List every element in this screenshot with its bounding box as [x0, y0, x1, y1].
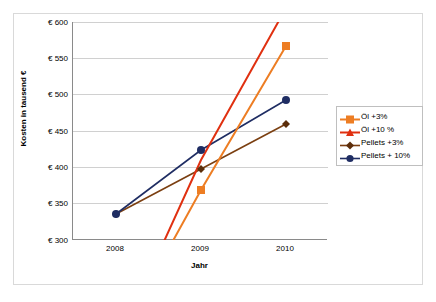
y-tick-450: € 450 — [24, 128, 68, 136]
legend-label-pellets-10: Pellets + 10% — [361, 151, 410, 160]
y-tick-350: € 350 — [24, 200, 68, 208]
legend-marker-square-icon — [340, 111, 360, 122]
x-tick-2008: 2008 — [90, 244, 140, 253]
legend-marker-triangle-icon — [340, 124, 360, 135]
line-chart: Kosten in tausend € € 600 € 550 € 500 € … — [0, 0, 436, 302]
series-line-pellets-10 — [116, 100, 286, 214]
legend-item-oel-10[interactable]: Öl +10 % — [340, 123, 420, 136]
legend-marker-diamond-icon — [340, 137, 360, 148]
legend-item-oel-3[interactable]: Öl +3% — [340, 110, 420, 123]
plot-svg — [73, 22, 328, 240]
legend-marker-circle-icon — [340, 150, 360, 161]
x-tick-2009: 2009 — [175, 244, 225, 253]
y-tick-400: € 400 — [24, 164, 68, 172]
x-axis-title: Jahr — [72, 261, 327, 270]
y-tick-300: € 300 — [24, 237, 68, 245]
legend-item-pellets-3[interactable]: Pellets +3% — [340, 136, 420, 149]
y-tick-550: € 550 — [24, 55, 68, 63]
chart-legend: Öl +3% Öl +10 % Pellets +3% — [336, 106, 423, 166]
y-tick-600: € 600 — [24, 19, 68, 27]
plot-area — [72, 22, 327, 240]
y-tick-500: € 500 — [24, 91, 68, 99]
legend-label-oel-3: Öl +3% — [361, 112, 387, 121]
legend-label-oel-10: Öl +10 % — [361, 125, 394, 134]
y-axis-tick-labels: € 600 € 550 € 500 € 450 € 400 € 350 € 30… — [22, 0, 68, 302]
series-line-oel-3 — [169, 46, 286, 240]
series-markers-pellets-10 — [112, 96, 290, 218]
x-tick-2010: 2010 — [260, 244, 310, 253]
legend-item-pellets-10[interactable]: Pellets + 10% — [340, 149, 420, 162]
legend-label-pellets-3: Pellets +3% — [361, 138, 403, 147]
